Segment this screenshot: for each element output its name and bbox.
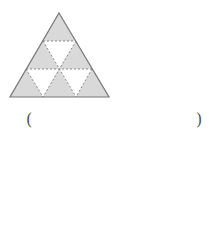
answer-open-paren: ( <box>26 110 32 130</box>
answer-close-paren: ) <box>196 110 202 130</box>
